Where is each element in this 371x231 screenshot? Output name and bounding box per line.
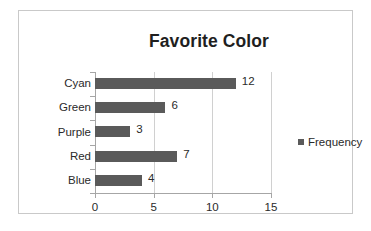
y-axis-category-labels: CyanGreenPurpleRedBlue	[19, 72, 91, 193]
bar-red[interactable]	[95, 151, 177, 162]
y-axis-tick	[90, 96, 95, 97]
x-axis-tick-5	[154, 194, 155, 198]
bar-value-label-cyan: 12	[242, 75, 255, 87]
bar-value-label-red: 7	[183, 148, 189, 160]
legend-label-frequency: Frequency	[308, 136, 362, 148]
chart-legend: Frequency	[298, 136, 362, 148]
bar-blue[interactable]	[95, 175, 142, 186]
y-axis-label-green: Green	[21, 101, 91, 113]
y-axis-tick	[90, 120, 95, 121]
bar-row: 4	[95, 169, 271, 193]
gridline-x-15	[271, 72, 272, 193]
y-axis-label-purple: Purple	[21, 126, 91, 138]
chart-frame: Favorite Color CyanGreenPurpleRedBlue 12…	[18, 10, 353, 214]
y-axis-tick	[90, 169, 95, 170]
plot-area: 126374	[95, 72, 271, 193]
x-axis-tick-15	[271, 194, 272, 198]
y-axis-label-cyan: Cyan	[21, 77, 91, 89]
y-axis-tick	[90, 145, 95, 146]
bar-green[interactable]	[95, 102, 165, 113]
bar-value-label-purple: 3	[136, 123, 142, 135]
y-axis-tick	[90, 72, 95, 73]
bar-row: 12	[95, 72, 271, 96]
x-axis-tick-0	[95, 194, 96, 198]
x-axis-label-5: 5	[139, 201, 169, 213]
chart-title: Favorite Color	[79, 31, 339, 52]
x-axis-label-15: 15	[256, 201, 286, 213]
x-axis-line	[95, 193, 272, 194]
y-axis-label-blue: Blue	[21, 174, 91, 186]
bar-value-label-green: 6	[171, 99, 177, 111]
bar-row: 6	[95, 96, 271, 120]
bar-purple[interactable]	[95, 126, 130, 137]
bar-cyan[interactable]	[95, 78, 236, 89]
y-axis-label-red: Red	[21, 150, 91, 162]
bar-row: 3	[95, 120, 271, 144]
bar-value-label-blue: 4	[148, 172, 154, 184]
x-axis-label-10: 10	[197, 201, 227, 213]
x-axis-tick-10	[212, 194, 213, 198]
bar-row: 7	[95, 145, 271, 169]
x-axis-label-0: 0	[80, 201, 110, 213]
legend-square-marker-icon	[298, 139, 304, 145]
